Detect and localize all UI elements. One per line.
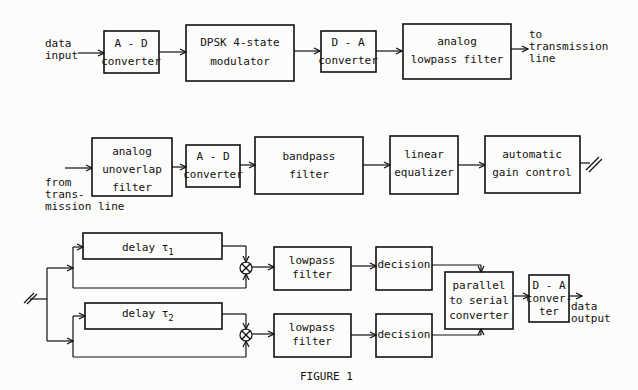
alpf-label-1: analog xyxy=(437,35,477,48)
continuation-mark-icon xyxy=(586,157,602,172)
da2-label-2: conver- xyxy=(526,292,572,305)
bpf-label-2: filter xyxy=(289,168,329,181)
da2-label-3: ter xyxy=(539,305,559,318)
ad-converter-1-label-2: converter xyxy=(101,55,161,68)
ad-converter-2-label-2: converter xyxy=(183,168,243,181)
from-trans-label-3: mission line xyxy=(45,200,124,213)
linear-equalizer-block xyxy=(390,136,458,194)
bpf-label-1: bandpass xyxy=(283,150,336,163)
leq-label-1: linear xyxy=(404,148,444,161)
alpf-label-2: lowpass filter xyxy=(411,53,504,66)
analog-lowpass-filter-block xyxy=(403,24,511,79)
block-diagram: data input A - D converter DPSK 4-state … xyxy=(0,0,638,390)
agc-label-2: gain control xyxy=(492,166,571,179)
demodulator-chain: delay τ1 lowpass filter decision delay τ… xyxy=(24,233,611,357)
da-converter-1-label-1: D - A xyxy=(331,36,364,49)
data-output-label-2: output xyxy=(571,312,611,325)
delay-tau1-label: delay τ1 xyxy=(122,241,174,257)
dpsk-label-2: modulator xyxy=(210,55,270,68)
decision1-label: decision xyxy=(378,258,431,271)
data-input-label-2: input xyxy=(45,49,78,62)
p2s-label-1: parallel xyxy=(453,279,506,292)
receiver-frontend-chain: from trans- mission line analog unoverla… xyxy=(45,136,602,213)
p2s-label-3: converter xyxy=(449,309,509,322)
agc-label-1: automatic xyxy=(502,148,562,161)
auf-label-3: filter xyxy=(112,181,152,194)
p2s-label-2: to serial xyxy=(449,294,509,307)
to-transmission-label-3: line xyxy=(529,52,556,65)
ad-converter-1-label-1: A - D xyxy=(114,37,147,50)
decision2-label: decision xyxy=(378,328,431,341)
lpf2-label-1: lowpass xyxy=(289,321,335,334)
da2-label-1: D - A xyxy=(532,279,565,292)
delay-tau2-label: delay τ2 xyxy=(122,307,174,323)
dpsk-modulator-block xyxy=(186,25,294,81)
ad-converter-2-label-1: A - D xyxy=(196,150,229,163)
multiplier-2-icon xyxy=(240,329,252,341)
dpsk-label-1: DPSK 4-state xyxy=(200,36,279,49)
bandpass-filter-block xyxy=(255,137,363,194)
automatic-gain-control-block xyxy=(485,136,580,193)
da-converter-1-label-2: converter xyxy=(318,54,378,67)
lpf2-label-2: filter xyxy=(292,335,332,348)
transmitter-chain: data input A - D converter DPSK 4-state … xyxy=(45,24,608,81)
auf-label-1: analog xyxy=(112,145,152,158)
lpf1-label-1: lowpass xyxy=(289,254,335,267)
auf-label-2: unoverlap xyxy=(102,163,162,176)
figure-caption: FIGURE 1 xyxy=(300,370,353,383)
lpf1-label-2: filter xyxy=(292,268,332,281)
multiplier-1-icon xyxy=(240,262,252,274)
leq-label-2: equalizer xyxy=(394,166,454,179)
